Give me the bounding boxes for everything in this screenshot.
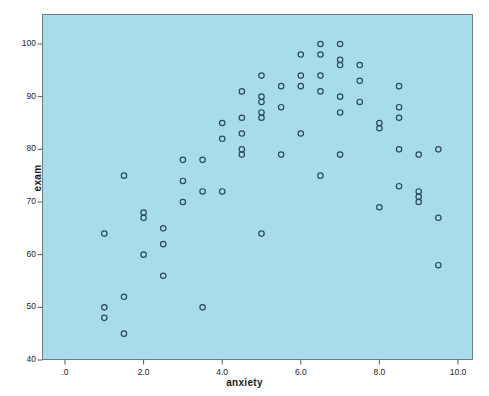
y-tick-label: 60 <box>8 249 36 259</box>
y-tick-label: 40 <box>8 354 36 364</box>
y-axis-title: exam <box>32 138 43 218</box>
x-tick-label: 2.0 <box>124 367 164 377</box>
y-tick-label: 100 <box>8 38 36 48</box>
y-tick-label: 90 <box>8 91 36 101</box>
x-tick-label: 10.0 <box>438 367 478 377</box>
x-tick-label: 4.0 <box>202 367 242 377</box>
scatter-plot-chart: 405060708090100 .02.04.06.08.010.0 exam … <box>0 0 489 396</box>
x-tick-label: 6.0 <box>281 367 321 377</box>
plot-canvas <box>0 0 489 396</box>
x-axis-title: anxiety <box>0 377 489 388</box>
x-tick-label: .0 <box>45 367 85 377</box>
y-tick-label: 50 <box>8 301 36 311</box>
x-tick-label: 8.0 <box>359 367 399 377</box>
